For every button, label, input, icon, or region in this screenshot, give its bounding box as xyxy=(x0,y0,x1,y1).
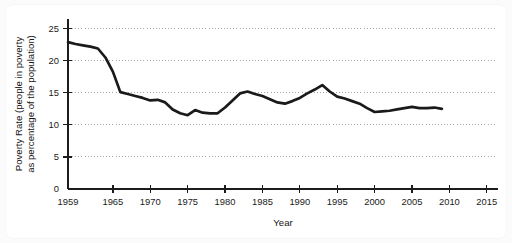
y-axis-title-line-2: as percentage of the population) xyxy=(25,35,36,173)
x-tick-label-1959: 1959 xyxy=(58,196,79,207)
x-tick-label-2000: 2000 xyxy=(364,196,385,207)
figure-card: 0510152025 19591965197019751980198519901… xyxy=(0,0,512,243)
x-tick-label-1990: 1990 xyxy=(289,196,310,207)
data-series-group xyxy=(68,42,442,115)
x-tick-label-2015: 2015 xyxy=(476,196,497,207)
y-tick-label-10: 10 xyxy=(49,119,59,130)
x-axis-title: Year xyxy=(273,217,293,228)
gridlines xyxy=(69,29,497,157)
chart-panel: 0510152025 19591965197019751980198519901… xyxy=(6,5,506,238)
y-tick-label-25: 25 xyxy=(49,23,59,34)
x-tick-label-2010: 2010 xyxy=(439,196,460,207)
y-axis-title-line-1: Poverty Rate (people in poverty xyxy=(13,37,24,172)
series-line-poverty-rate xyxy=(68,42,442,115)
x-tick-label-2005: 2005 xyxy=(402,196,423,207)
x-tick-label-1975: 1975 xyxy=(177,196,198,207)
poverty-rate-line-chart: 0510152025 19591965197019751980198519901… xyxy=(6,5,506,238)
x-tick-label-1980: 1980 xyxy=(215,196,236,207)
y-tick-label-0: 0 xyxy=(54,183,59,194)
y-tick-label-20: 20 xyxy=(49,55,59,66)
y-tick-label-5: 5 xyxy=(54,151,59,162)
y-tick-label-15: 15 xyxy=(49,87,59,98)
x-tick-label-1970: 1970 xyxy=(140,196,161,207)
y-axis-title: Poverty Rate (people in poverty as perce… xyxy=(13,35,36,173)
x-tick-label-1995: 1995 xyxy=(327,196,348,207)
x-tick-label-1985: 1985 xyxy=(252,196,273,207)
x-tick-label-1965: 1965 xyxy=(102,196,123,207)
